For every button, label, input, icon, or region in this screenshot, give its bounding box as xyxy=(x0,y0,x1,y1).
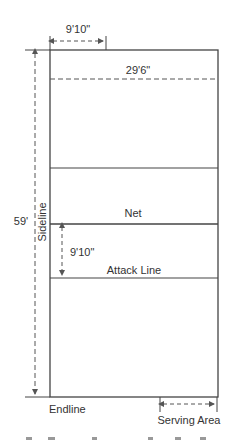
attack-line-label: Attack Line xyxy=(107,264,161,276)
sideline-label: Sideline xyxy=(36,202,48,241)
serving-area-label: Serving Area xyxy=(158,414,222,426)
court-diagram: 9'10" 29'6" 59' Sideline Net 9'10" Attac… xyxy=(0,0,229,440)
top-width-label: 9'10" xyxy=(66,23,90,35)
court-width-label: 29'6" xyxy=(126,64,150,76)
endline-label: Endline xyxy=(49,403,86,415)
length-label: 59' xyxy=(14,215,28,227)
net-label: Net xyxy=(124,207,141,219)
attack-distance-label: 9'10" xyxy=(70,246,94,258)
